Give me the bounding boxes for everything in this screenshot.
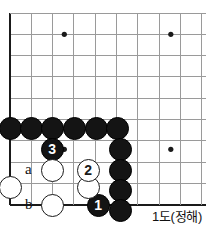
point-label-a: a	[25, 162, 32, 177]
black-stone	[106, 117, 129, 140]
black-stone	[109, 199, 132, 222]
black-stone	[0, 117, 22, 140]
white-stone	[41, 159, 64, 182]
star-point	[62, 32, 67, 37]
black-stone	[85, 117, 108, 140]
move-number: 1	[94, 198, 101, 212]
star-point	[168, 147, 173, 152]
diagram-caption: 1도(정해)	[152, 206, 202, 225]
go-diagram: 312 ab 1도(정해)	[0, 0, 206, 227]
black-stone	[63, 117, 86, 140]
black-stone-move-3: 3	[41, 138, 64, 161]
go-board-grid	[0, 0, 206, 227]
black-stone	[41, 117, 64, 140]
point-label-b: b	[25, 197, 33, 212]
star-point	[168, 32, 173, 37]
grid-lines	[10, 13, 206, 205]
move-number: 2	[84, 163, 91, 177]
white-stone-move-2: 2	[77, 159, 100, 182]
black-stone	[109, 138, 132, 161]
white-stone	[41, 194, 64, 217]
white-stone	[0, 176, 22, 199]
black-stone	[20, 117, 43, 140]
move-number: 3	[48, 142, 55, 156]
